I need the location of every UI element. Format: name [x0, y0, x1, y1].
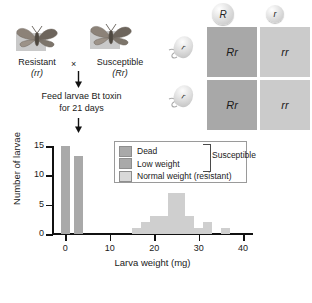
histogram-chart: 051015 Number of larvae Larva weight (mg… — [0, 133, 312, 303]
x-tick-10 — [110, 234, 112, 241]
moth-glyph — [88, 22, 134, 52]
bar-normal-18mg — [141, 222, 150, 234]
x-tick-30 — [199, 234, 201, 241]
down-arrow-icon-2 — [74, 118, 83, 133]
y-tick-0 — [46, 234, 53, 236]
x-tick-label-40: 40 — [231, 243, 255, 253]
punnett-square-panel: R r r r Rr rr Rr rr — [165, 0, 312, 135]
bar-normal-36mg — [221, 228, 230, 234]
treatment-text: Feed larvae Bt toxin for 21 days — [4, 91, 159, 114]
bar-normal-28mg — [185, 216, 194, 234]
x-tick-label-30: 30 — [187, 243, 211, 253]
cross-panel: Resistant (rr) × Susceptible (Rr) Feed l… — [0, 0, 165, 135]
y-tick-15 — [46, 146, 53, 148]
figure-bt-resistance-cross: Resistant (rr) × Susceptible (Rr) Feed l… — [0, 0, 312, 303]
egg-gamete-label-1: R — [219, 9, 226, 20]
legend-swatch-low-weight — [119, 158, 132, 169]
egg-cell-icon-r: r — [266, 5, 284, 23]
x-tick-label-10: 10 — [98, 243, 122, 253]
legend-swatch-dead — [119, 146, 132, 157]
sperm-cell-icon-2: r — [168, 82, 202, 112]
y-axis-title: Number of larvae — [11, 123, 22, 215]
bar-dead-0mg — [61, 146, 70, 234]
moth-icon-susceptible — [88, 22, 134, 52]
punnett-cell-1: Rr — [207, 27, 257, 77]
egg-cell-icon-R: R — [212, 3, 234, 25]
bar-normal-26mg — [176, 193, 185, 234]
parent-genotype-susceptible: (Rr) — [112, 68, 128, 78]
treatment-line-2: for 21 days — [59, 103, 104, 113]
punnett-cell-4: rr — [260, 80, 310, 130]
x-axis-title: Larva weight (mg) — [52, 257, 253, 268]
down-arrow-icon-1 — [74, 71, 83, 88]
legend-label-normal-weight: Normal weight (resistant) — [137, 171, 231, 181]
bar-normal-20mg — [150, 216, 159, 234]
moth-icon-resistant — [14, 24, 60, 54]
legend-item-normal-weight: Normal weight (resistant) — [119, 170, 242, 183]
parent-name-susceptible: Susceptible — [97, 57, 144, 67]
egg-gamete-label-2: r — [274, 9, 277, 19]
moth-glyph — [14, 24, 60, 54]
y-axis-labels: 051015 — [0, 146, 44, 235]
x-tick-label-0: 0 — [53, 243, 77, 253]
treatment-line-1: Feed larvae Bt toxin — [41, 91, 121, 101]
sperm-gamete-label-1: r — [181, 42, 187, 51]
bar-normal-16mg — [132, 228, 141, 234]
y-tick-5 — [46, 205, 53, 207]
bar-low-3mg — [74, 156, 83, 234]
bar-normal-32mg — [203, 222, 212, 234]
legend-label-low-weight: Low weight — [137, 159, 180, 169]
bar-normal-24mg — [168, 193, 177, 234]
y-tick-10 — [46, 175, 53, 177]
bar-normal-22mg — [159, 216, 168, 234]
x-tick-40 — [243, 234, 245, 241]
parent-name-resistant: Resistant — [18, 57, 56, 67]
legend-swatch-normal-weight — [119, 171, 132, 182]
legend-label-dead: Dead — [137, 146, 157, 156]
chart-legend: Dead Low weight Normal weight (resistant… — [114, 141, 247, 183]
susceptible-brace — [203, 144, 211, 172]
x-tick-label-20: 20 — [142, 243, 166, 253]
parent-label-susceptible: Susceptible (Rr) — [84, 57, 156, 79]
punnett-cell-3: Rr — [207, 80, 257, 130]
parent-label-resistant: Resistant (rr) — [2, 57, 72, 79]
x-tick-0 — [65, 234, 67, 241]
x-tick-20 — [154, 234, 156, 241]
sperm-gamete-label-2: r — [181, 91, 187, 100]
y-tick-label-0: 0 — [4, 228, 44, 238]
punnett-grid: Rr rr Rr rr — [207, 27, 310, 130]
sperm-cell-icon-1: r — [168, 33, 202, 63]
punnett-cell-2: rr — [260, 27, 310, 77]
parent-genotype-resistant: (rr) — [31, 68, 43, 78]
cross-symbol: × — [71, 59, 76, 69]
susceptible-annotation: Susceptible — [212, 150, 256, 160]
